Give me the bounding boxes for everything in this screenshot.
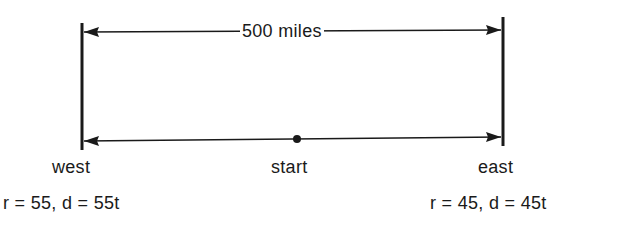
start-label: start bbox=[271, 158, 308, 176]
distance-arrowhead-right-icon bbox=[486, 25, 501, 35]
distance-arrowhead-left-icon bbox=[84, 27, 99, 37]
east-equation: r = 45, d = 45t bbox=[430, 194, 547, 212]
west-equation: r = 55, d = 55t bbox=[3, 194, 120, 212]
travel-arrowhead-west-icon bbox=[84, 136, 99, 146]
distance-label: 500 miles bbox=[240, 22, 324, 40]
travel-arrow-line bbox=[84, 137, 501, 141]
start-point-dot bbox=[293, 135, 301, 143]
travel-arrowhead-east-icon bbox=[486, 132, 501, 142]
west-label: west bbox=[52, 158, 90, 176]
east-label: east bbox=[478, 158, 513, 176]
